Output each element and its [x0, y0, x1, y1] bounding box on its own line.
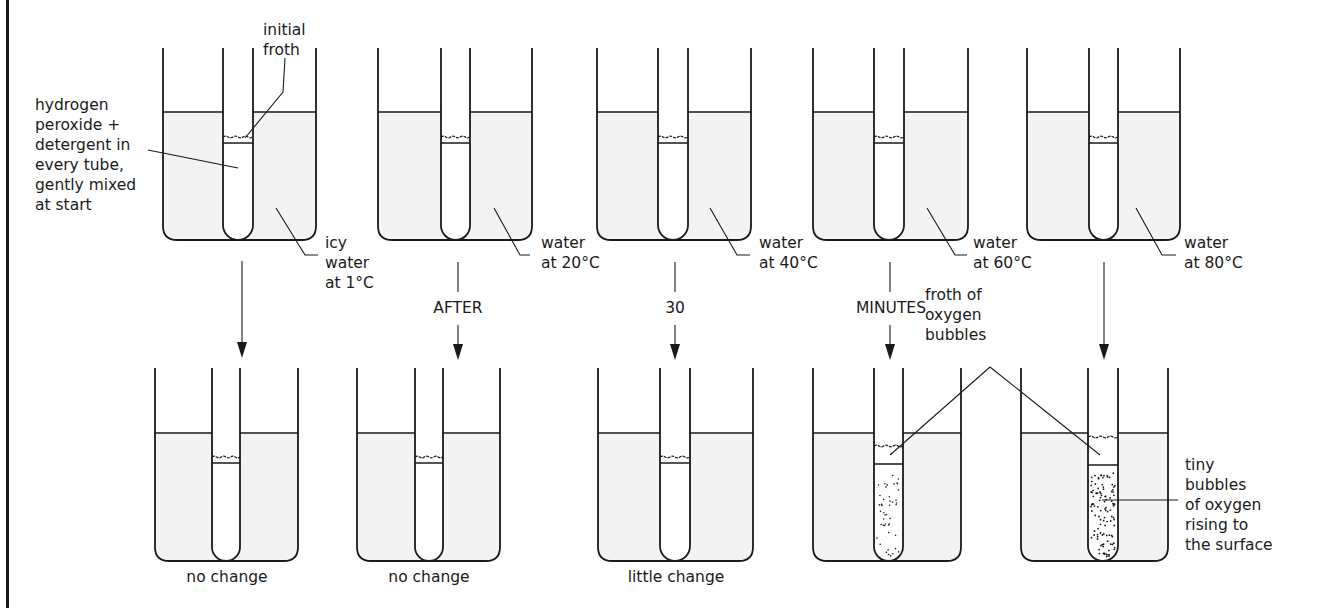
bubble-dot: [1091, 537, 1093, 539]
bubble-dot: [1107, 540, 1109, 542]
bubble-dot: [1108, 550, 1110, 552]
froth-oxygen-label: froth of oxygen bubbles: [925, 285, 986, 345]
bubble-dot: [888, 532, 890, 534]
bubble-dot: [1113, 517, 1115, 519]
bubble-dot: [892, 553, 894, 555]
bubble-dot: [1110, 520, 1112, 522]
bubble-dot: [879, 504, 881, 506]
bubble-dot: [1097, 477, 1099, 479]
bubble-dot: [1110, 543, 1112, 545]
bubble-dot: [1090, 491, 1092, 493]
timeline-minutes: MINUTES: [856, 299, 926, 317]
bubble-dot: [1109, 534, 1111, 536]
bubble-dot: [1112, 472, 1114, 474]
bubble-dot: [1100, 510, 1102, 512]
bubble-dot: [1114, 504, 1116, 506]
bubble-dot: [1103, 475, 1105, 477]
bubble-dot: [1103, 520, 1105, 522]
bubble-dot: [1097, 534, 1099, 536]
bubble-dot: [1104, 501, 1106, 503]
bubble-dot: [1093, 495, 1095, 497]
arrow-head-1: [237, 342, 247, 358]
bubble-dot: [1100, 497, 1102, 499]
bubble-dot: [880, 524, 882, 526]
bubble-dot: [889, 505, 891, 507]
bubble-dot: [1100, 474, 1102, 476]
bubble-dot: [898, 489, 900, 491]
bubble-dot: [1104, 517, 1106, 519]
bubble-dot: [883, 518, 885, 520]
bubble-dot: [879, 544, 881, 546]
bubble-dot: [889, 518, 891, 520]
bubble-dot: [1094, 515, 1096, 517]
bubble-dot: [1097, 488, 1099, 490]
bubble-dot: [1099, 553, 1101, 555]
bubble-dot: [886, 514, 888, 516]
bubble-dot: [1113, 548, 1115, 550]
reagent-label: hydrogen peroxide + detergent in every t…: [35, 95, 136, 215]
bubble-dot: [1097, 536, 1099, 538]
bubble-dot: [1097, 538, 1099, 540]
bubble-dot: [1098, 516, 1100, 518]
bubble-dot: [1102, 534, 1104, 536]
bubble-dot: [1110, 509, 1112, 511]
bubble-dot: [1111, 516, 1113, 518]
water-label-80c: water at 80°C: [1184, 233, 1243, 273]
bubble-dot: [1114, 547, 1116, 549]
bubble-dot: [895, 535, 897, 537]
water-label-1c: icy water at 1°C: [325, 233, 374, 293]
initial-froth-label: initial froth: [263, 20, 306, 60]
bubble-dot: [1097, 506, 1099, 508]
bubble-dot: [1112, 491, 1114, 493]
bubble-dot: [885, 486, 887, 488]
bubble-dot: [1102, 477, 1104, 479]
timeline-30: 30: [665, 299, 685, 317]
bubble-dot: [1111, 535, 1113, 537]
bubble-dot: [878, 484, 880, 486]
bubble-dot: [1090, 506, 1092, 508]
bubble-dot: [1113, 542, 1115, 544]
bubble-dot: [1100, 493, 1102, 495]
bubble-dot: [1104, 496, 1106, 498]
bubble-dot: [1100, 523, 1102, 525]
bubble-dot: [898, 551, 900, 553]
bubble-dot: [1102, 486, 1104, 488]
bubble-dot: [896, 502, 898, 504]
bubble-dot: [1106, 556, 1108, 558]
result-caption-40c: little change: [628, 568, 725, 586]
bubble-dot: [888, 554, 890, 556]
bubble-dot: [1113, 519, 1115, 521]
bubble-dot: [1093, 503, 1095, 505]
bubble-dot: [895, 548, 897, 550]
bubble-dot: [876, 537, 878, 539]
arrow-head-5: [1099, 344, 1109, 360]
bubble-dot: [1112, 544, 1114, 546]
bubble-dot: [1104, 552, 1106, 554]
bubble-dot: [1106, 475, 1108, 477]
bubble-dot: [1100, 519, 1102, 521]
bubble-dot: [1106, 521, 1108, 523]
bubble-dot: [888, 523, 890, 525]
bubble-dot: [885, 523, 887, 525]
bubble-dot: [892, 475, 894, 477]
bubble-dot: [1101, 484, 1103, 486]
bubble-dot: [892, 501, 894, 503]
bubble-dot: [890, 555, 892, 557]
bubble-dot: [1109, 497, 1111, 499]
result-caption-20c: no change: [388, 568, 469, 586]
tiny-bubbles-label: tiny bubbles of oxygen rising to the sur…: [1185, 455, 1273, 555]
bubble-dot: [1102, 546, 1104, 548]
bubble-dot: [884, 525, 886, 527]
bubble-dot: [1099, 499, 1101, 501]
experiment-diagram: [0, 0, 1319, 608]
bubble-dot: [1097, 528, 1099, 530]
bubble-dot: [1094, 505, 1096, 507]
bubble-dot: [1114, 485, 1116, 487]
timeline-after: AFTER: [433, 299, 482, 317]
bubble-dot: [886, 484, 888, 486]
bubble-dot: [1097, 492, 1099, 494]
bubble-dot: [889, 500, 891, 502]
bubble-dot: [895, 504, 897, 506]
bubble-dot: [1103, 543, 1105, 545]
bubble-dot: [884, 514, 886, 516]
